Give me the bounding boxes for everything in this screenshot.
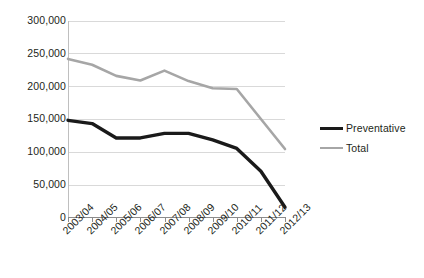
plot-area: 300,000 250,000 200,000 150,000 100,000 … [0,0,424,278]
legend-label: Total [346,142,369,154]
legend-swatch-total-icon [320,147,343,149]
series-line-total [68,59,285,149]
chart-container: 300,000 250,000 200,000 150,000 100,000 … [0,0,424,278]
legend-item-total[interactable]: Total [320,138,406,158]
chart-legend: Preventative Total [320,118,406,158]
legend-swatch-preventative-icon [320,127,343,130]
series-line-preventative [68,120,285,207]
legend-label: Preventative [346,122,406,134]
legend-item-preventative[interactable]: Preventative [320,118,406,138]
